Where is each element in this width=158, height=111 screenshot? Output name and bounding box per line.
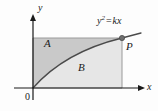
x-axis-label: x [147,82,151,92]
figure-canvas [0,0,158,111]
equation-operator: = [105,15,113,26]
region-a-label: A [44,38,51,49]
y-axis-arrowhead [30,14,36,21]
math-figure: A B P y x 0 y2=kx [0,0,158,111]
y-axis-label: y [38,3,42,13]
point-p-marker [119,35,124,40]
x-axis-arrowhead [138,85,145,91]
curve-equation-label: y2=kx [97,16,121,26]
origin-label: 0 [25,92,30,102]
equation-right-side: kx [113,15,122,26]
region-b-label: B [78,62,85,73]
point-p-label: P [126,41,133,52]
